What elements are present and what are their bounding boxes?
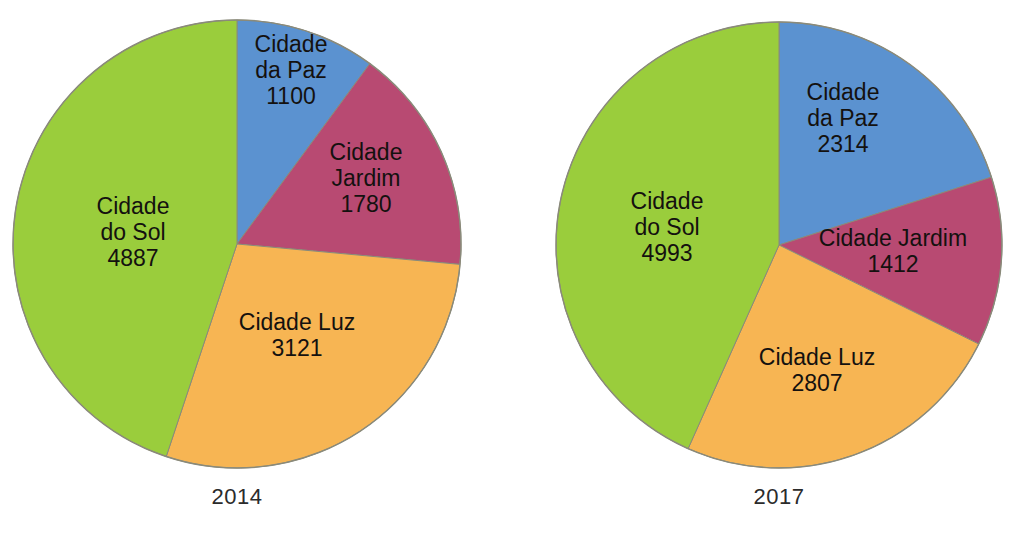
slice-label-line: da Paz: [255, 57, 327, 83]
pie-chart-2014: Cidadeda Paz1100CidadeJardim1780Cidade L…: [0, 0, 1009, 480]
slice-label-line: Cidade: [97, 193, 170, 219]
slice-label-line: Cidade: [330, 139, 403, 165]
pie-group-2017: Cidadeda Paz2314Cidade Jardim1412Cidade …: [556, 22, 1002, 468]
slice-label-line: Cidade Jardim: [819, 225, 967, 251]
slice-label-line: do Sol: [100, 219, 165, 245]
slice-label-cidade-do-sol: Cidadedo Sol4993: [631, 188, 704, 266]
slice-label-line: Cidade: [631, 188, 704, 214]
slice-label-line: Jardim: [331, 165, 400, 191]
slice-label-cidade-da-paz: Cidadeda Paz2314: [807, 79, 880, 157]
figure-root: Cidadeda Paz1100CidadeJardim1780Cidade L…: [0, 0, 1009, 539]
slice-label-line: Cidade: [807, 79, 880, 105]
slice-label-line: Cidade: [255, 31, 328, 57]
slice-label-cidade-jardim: CidadeJardim1780: [330, 139, 403, 217]
slice-label-line: 2807: [791, 370, 842, 396]
slice-label-line: 4993: [641, 240, 692, 266]
year-caption-2014: 2014: [137, 484, 337, 510]
slice-label-line: da Paz: [807, 105, 879, 131]
pie-chart-2014-svg: Cidadeda Paz1100CidadeJardim1780Cidade L…: [0, 0, 1009, 480]
slice-label-line: 4887: [107, 245, 158, 271]
slice-label-line: 3121: [271, 335, 322, 361]
slice-label-line: Cidade Luz: [759, 344, 875, 370]
year-caption-2017: 2017: [679, 484, 879, 510]
slice-label-line: 1780: [340, 191, 391, 217]
slice-label-line: 2314: [817, 131, 868, 157]
slice-label-line: Cidade Luz: [239, 309, 355, 335]
slice-label-line: do Sol: [634, 214, 699, 240]
slice-label-line: 1100: [266, 83, 315, 109]
slice-label-line: 1412: [867, 251, 918, 277]
slice-label-cidade-do-sol: Cidadedo Sol4887: [97, 193, 170, 271]
pie-group-2014: Cidadeda Paz1100CidadeJardim1780Cidade L…: [13, 20, 461, 468]
